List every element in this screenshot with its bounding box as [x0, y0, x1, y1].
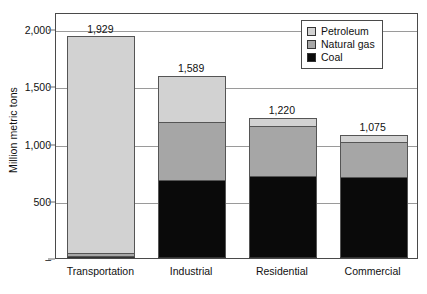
legend-item-natural-gas[interactable]: Natural gas	[307, 38, 375, 51]
x-tick-label-commercial: Commercial	[345, 265, 401, 277]
legend-swatch-icon	[307, 53, 316, 62]
bar-total-label: 1,589	[178, 62, 204, 74]
bar-segment-petroleum[interactable]	[249, 118, 317, 125]
x-tick-label-transportation: Transportation	[67, 265, 134, 277]
bar-total-label: 1,929	[87, 23, 113, 35]
y-tick-mark	[48, 87, 55, 88]
y-tick-label: 1,000	[3, 139, 51, 151]
y-tick-label: 2,000	[3, 24, 51, 36]
bar-segment-coal[interactable]	[249, 176, 317, 258]
bar-total-label: 1,220	[269, 104, 295, 116]
bar-segment-petroleum[interactable]	[158, 76, 226, 122]
legend-label: Natural gas	[321, 39, 375, 50]
legend-swatch-icon	[307, 40, 316, 49]
bar-segment-natural-gas[interactable]	[340, 142, 408, 177]
bar-total-label: 1,075	[359, 121, 385, 133]
bar-segment-natural-gas[interactable]	[158, 122, 226, 180]
bar-transportation[interactable]	[67, 12, 135, 258]
bar-chart: Million metric tons 2,0001,5001,000500– …	[0, 0, 427, 294]
legend-item-petroleum[interactable]: Petroleum	[307, 25, 375, 38]
bar-segment-coal[interactable]	[340, 177, 408, 258]
y-tick-label: 1,500	[3, 81, 51, 93]
bar-segment-petroleum[interactable]	[67, 36, 135, 252]
legend-label: Petroleum	[321, 26, 369, 37]
legend-item-coal[interactable]: Coal	[307, 51, 375, 64]
y-tick-label: –	[3, 253, 51, 265]
x-tick-label-residential: Residential	[256, 265, 308, 277]
legend-swatch-icon	[307, 27, 316, 36]
chart-legend: PetroleumNatural gasCoal	[301, 20, 383, 69]
y-tick-mark	[48, 201, 55, 202]
y-axis-title-text: Million metric tons	[7, 87, 19, 173]
bar-segment-coal[interactable]	[67, 256, 135, 258]
bar-segment-natural-gas[interactable]	[249, 126, 317, 176]
x-tick-label-industrial: Industrial	[170, 265, 213, 277]
y-tick-mark	[48, 30, 55, 31]
bar-segment-coal[interactable]	[158, 180, 226, 258]
legend-label: Coal	[321, 52, 343, 63]
bar-segment-petroleum[interactable]	[340, 135, 408, 142]
y-tick-mark	[48, 144, 55, 145]
y-tick-label: 500	[3, 196, 51, 208]
y-tick-mark	[48, 259, 55, 260]
bar-industrial[interactable]	[158, 12, 226, 258]
y-axis-title: Million metric tons	[4, 0, 22, 259]
